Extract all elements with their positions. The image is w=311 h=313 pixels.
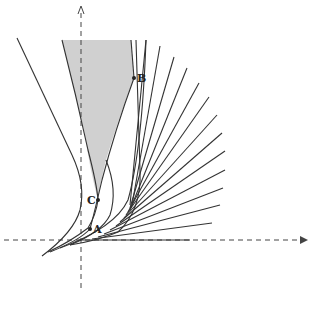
shaded-region bbox=[62, 40, 134, 200]
point-C bbox=[96, 198, 100, 202]
label-B: B bbox=[137, 72, 146, 85]
arrow-right-icon bbox=[300, 236, 308, 244]
diagram-svg: B C A bbox=[0, 0, 311, 313]
label-A: A bbox=[92, 223, 102, 236]
diagram-canvas: B C A bbox=[0, 0, 311, 313]
point-B bbox=[132, 76, 136, 80]
left-boundary-line bbox=[17, 38, 72, 155]
point-A bbox=[88, 227, 92, 231]
outer-curve bbox=[42, 155, 82, 256]
label-C: C bbox=[87, 194, 96, 207]
arrow-up-icon bbox=[78, 6, 84, 14]
